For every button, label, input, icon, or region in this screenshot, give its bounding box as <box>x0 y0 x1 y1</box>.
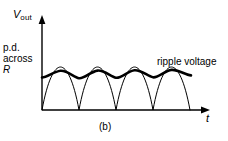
pd-across-r-label: p.d. across R <box>3 42 32 76</box>
ripple-voltage-diagram: Vout p.d. across R ripple voltage t (b) <box>0 0 228 141</box>
pd-line-3-resistor: R <box>3 64 32 75</box>
rectified-sine-humps <box>42 67 190 110</box>
y-axis-label-subscript: out <box>20 13 31 22</box>
pd-line-1: p.d. <box>3 42 32 53</box>
ripple-voltage-label: ripple voltage <box>157 56 216 67</box>
y-axis-arrowhead <box>39 15 46 24</box>
ripple-voltage-curve <box>42 70 191 78</box>
x-axis-label: t <box>206 112 209 124</box>
pd-line-2: across <box>3 53 32 64</box>
y-axis-label: Vout <box>13 8 32 23</box>
figure-caption: (b) <box>99 121 111 132</box>
waveform-plot <box>0 0 228 141</box>
